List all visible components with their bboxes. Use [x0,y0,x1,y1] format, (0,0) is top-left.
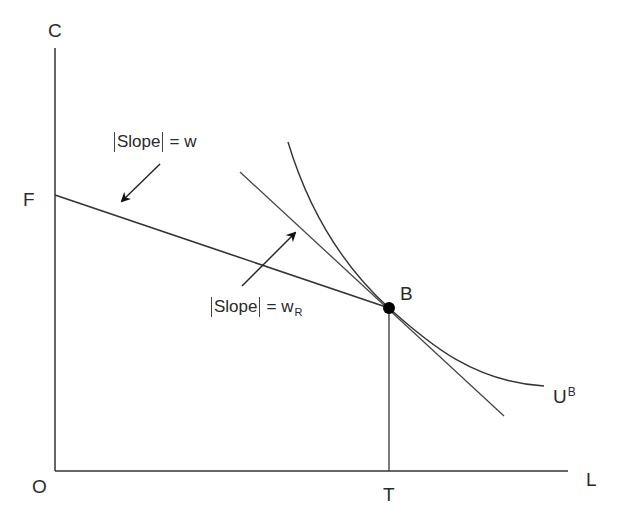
point-b-marker [383,302,395,314]
reservation-wage-symbol: w [281,297,293,316]
budget-slope-annotation: Slope= w [114,132,196,152]
point-b-label: B [400,284,413,303]
point-t-label: T [383,485,395,504]
reservation-wage-subscript: R [294,306,302,318]
indifference-curve [288,142,544,386]
equals-sign: = [169,132,179,151]
arrow-budget-slope [122,164,160,201]
point-f-label: F [23,190,35,209]
reservation-slope-annotation: Slope= wR [211,297,302,318]
indifference-curve-label: UB [553,386,576,406]
indifference-curve-label-superscript: B [568,385,576,399]
wage-symbol: w [184,132,196,151]
arrow-reservation-slope [242,233,295,286]
equals-sign: = [266,297,276,316]
x-axis-label: L [586,470,597,489]
y-axis-label: C [48,21,62,40]
origin-label: O [32,477,47,496]
abs-slope-text: Slope [114,132,163,152]
diagram-canvas [0,0,626,520]
reservation-wage-line [240,172,504,416]
indifference-curve-label-main: U [553,386,567,407]
abs-slope-text: Slope [211,297,260,317]
